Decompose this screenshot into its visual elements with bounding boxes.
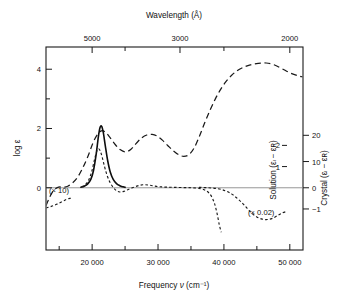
bottom-tick-label-3: 50 000 [278,258,301,267]
scale-times-point-zero-two-annotation: (× 0.02) [248,208,275,217]
crystal-tick-label-3: 20 [312,131,320,140]
left-axis-tick-labels: 024 [37,65,41,193]
top-tick-label-2: 2000 [281,34,298,43]
solution-axis-ticks [282,145,287,166]
left-tick-label-1: 2 [37,124,41,133]
bottom-axis-ticks [59,244,290,250]
crystal-axis-ticks [303,135,309,209]
top-tick-label-1: 3000 [172,34,189,43]
bottom-tick-label-0: 20 000 [81,258,104,267]
curve-absorption-log-epsilon [46,63,303,206]
crystal-axis-title: Crystal (εₗ − εʀ) [320,150,329,206]
top-axis-ticks [92,47,290,53]
curve-solution-cd-dotted-low-frequency [46,198,72,208]
bottom-axis-title: Frequency ν (cm⁻¹) [139,281,210,290]
left-tick-label-2: 4 [37,65,41,74]
solution-axis-title: Solution (εₗ − εʀ) [269,140,278,200]
top-tick-label-0: 5000 [84,34,101,43]
left-axis-title: log ε [13,139,22,156]
top-axis-tick-labels: 500030002000 [84,34,299,43]
spectroscopy-figure: 500030002000 20 00030 00040 00050 000 02… [0,0,354,297]
curve-solution-cd-dotted-main [82,149,222,233]
left-tick-label-0: 0 [37,184,41,193]
top-axis-title: Wavelength (Å) [146,10,202,20]
bottom-tick-label-2: 40 000 [212,258,235,267]
chart-frame [46,47,303,250]
crystal-tick-label-1: 0 [312,184,316,193]
chart-curves [46,63,303,232]
chart-svg: 500030002000 20 00030 00040 00050 000 02… [0,0,354,297]
scale-times-ten-annotation: (× 10) [49,186,70,195]
bottom-tick-label-1: 30 000 [146,258,169,267]
plot-frame [46,47,303,250]
left-axis-ticks [46,69,52,188]
bottom-axis-tick-labels: 20 00030 00040 00050 000 [81,258,302,267]
